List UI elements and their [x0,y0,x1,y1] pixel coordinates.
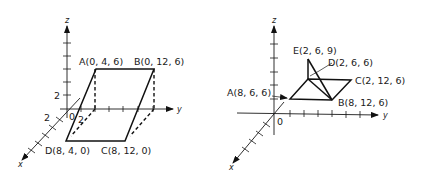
left-point-d-label: D(8, 4, 0) [45,145,90,156]
left-figure: z y x 0 2 2 2 A(0, 4, 6) B(0, 12, 6) D(8… [17,16,184,169]
right-point-d-label: D(2, 6, 6) [328,57,373,68]
right-x-label: x [228,163,234,172]
left-x-tick-label: 2 [44,112,50,123]
left-point-c-label: C(8, 12, 0) [101,145,151,156]
right-edge-db [308,79,332,100]
right-figure: z y x 0 E(2, 6, 9) D(2, 6, 6) C(2, 12, 6… [227,16,405,172]
left-y-label: y [176,105,182,114]
right-origin-label: 0 [277,116,283,127]
left-x-label: x [17,160,23,169]
right-point-b-label: B(8, 12, 6) [338,97,388,108]
left-point-a-label: A(0, 4, 6) [79,56,123,67]
right-z-label: z [271,16,277,25]
left-y-tick-label: 2 [78,114,84,125]
right-point-a-label: A(8, 6, 6) [227,87,271,98]
left-z-tick-label: 2 [54,90,60,101]
left-z-label: z [64,16,70,25]
right-point-c-label: C(2, 12, 6) [355,75,405,86]
left-parallelogram-abcd [66,69,154,141]
diagram-canvas: z y x 0 2 2 2 A(0, 4, 6) B(0, 12, 6) D(8… [0,0,424,182]
right-y-label: y [382,111,388,120]
left-dash-bc-base [130,109,154,136]
left-point-b-label: B(0, 12, 6) [134,56,184,67]
right-point-e-label: E(2, 6, 9) [293,45,337,56]
left-origin-label: 0 [69,111,75,122]
right-y-axis [237,113,378,115]
